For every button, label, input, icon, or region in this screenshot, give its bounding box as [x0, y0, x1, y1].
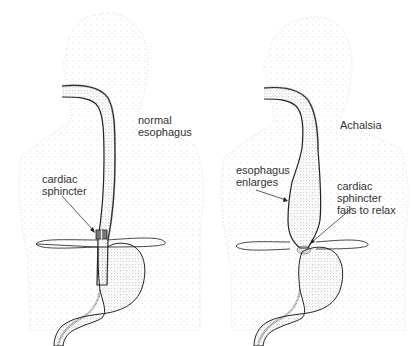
label-esophagus-enlarges: esophagus enlarges [236, 164, 290, 188]
esophagus-comparison-diagram: normal esophagus cardiac sphincter Achal… [0, 0, 412, 346]
label-cardiac-sphincter-normal: cardiac sphincter [42, 173, 87, 197]
label-cardiac-sphincter-fails: cardiac sphincter fails to relax [337, 180, 396, 216]
label-achalasia: Achalsia [340, 119, 382, 131]
label-normal-esophagus: normal esophagus [138, 114, 192, 138]
